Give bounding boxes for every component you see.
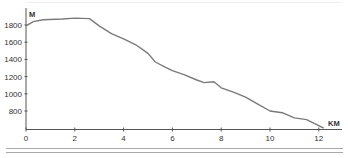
x-tick-label: 0 xyxy=(24,134,29,143)
elevation-chart: 80010001200140016001800 024681012 M KM xyxy=(0,0,348,158)
y-tick-label: 1800 xyxy=(4,21,22,30)
elevation-line xyxy=(26,18,324,128)
x-tick-label: 4 xyxy=(121,134,126,143)
x-unit-label: KM xyxy=(328,119,340,128)
y-tick-label: 1400 xyxy=(4,55,22,64)
y-axis-ticks: 80010001200140016001800 xyxy=(4,21,27,116)
x-tick-label: 8 xyxy=(219,134,224,143)
y-tick-label: 1000 xyxy=(4,90,22,99)
x-tick-label: 6 xyxy=(170,134,175,143)
x-tick-label: 12 xyxy=(314,134,323,143)
y-unit-label: M xyxy=(29,10,35,19)
x-tick-label: 2 xyxy=(73,134,78,143)
x-tick-label: 10 xyxy=(266,134,275,143)
y-tick-label: 800 xyxy=(9,107,23,116)
y-tick-label: 1600 xyxy=(4,38,22,47)
y-tick-label: 1200 xyxy=(4,73,22,82)
